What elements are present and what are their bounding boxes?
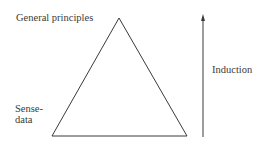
base-label-line2: data [15,114,43,125]
triangle-shape [52,18,187,136]
induction-arrow-head [201,14,205,21]
base-label-line1: Sense- [15,103,43,114]
apex-label: General principles [16,12,93,24]
induction-label: Induction [212,64,252,76]
base-label: Sense- data [15,103,43,125]
